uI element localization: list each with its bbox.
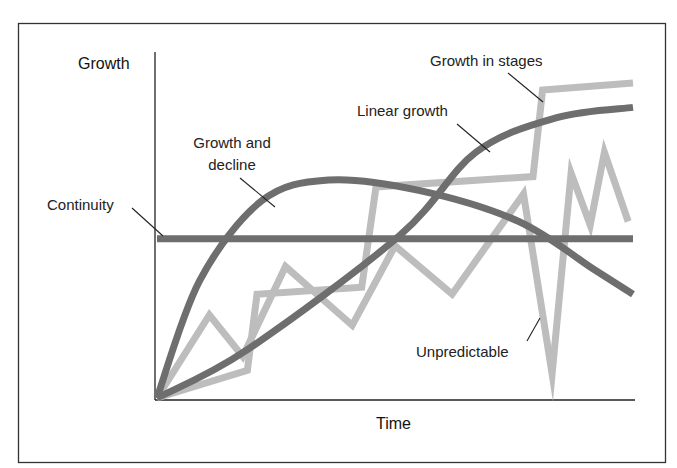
series-layer <box>157 83 633 398</box>
label-growth-and-decline-line2: decline <box>180 155 284 174</box>
label-linear-growth: Linear growth <box>357 101 448 120</box>
label-growth-and-decline: Growth and decline <box>180 133 284 174</box>
label-growth-in-stages: Growth in stages <box>430 51 543 70</box>
label-continuity: Continuity <box>47 195 114 214</box>
label-unpredictable: Unpredictable <box>416 342 509 361</box>
leader-linear-growth <box>457 124 490 152</box>
leader-continuity <box>132 208 163 236</box>
label-growth-and-decline-line1: Growth and <box>180 133 284 152</box>
leader-growth-in-stages <box>508 73 543 102</box>
y-axis-label: Growth <box>78 54 130 73</box>
x-axis-label: Time <box>376 414 411 433</box>
leader-unpredictable <box>527 318 540 341</box>
